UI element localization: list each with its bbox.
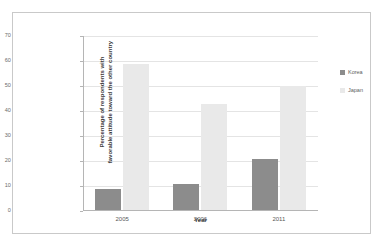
legend-item-japan[interactable]: Japan (340, 87, 384, 94)
bar-japan-2005[interactable] (123, 64, 149, 212)
legend-label: Japan (348, 88, 363, 94)
legend-item-korea[interactable]: Korea (340, 69, 384, 76)
x-axis-line (83, 210, 318, 211)
y-tick-label: 0 (0, 208, 11, 214)
y-axis-title: Percentage of respondents with favorable… (98, 17, 114, 187)
y-tick-mark (80, 61, 83, 62)
bar-japan-2006[interactable] (201, 104, 227, 212)
y-tick-label: 50 (0, 83, 11, 89)
y-tick-mark (80, 86, 83, 87)
y-tick-label: 30 (0, 133, 11, 139)
chart-legend: KoreaJapan (340, 69, 384, 105)
y-axis-line (83, 36, 84, 211)
bar-korea-2005[interactable] (95, 189, 121, 212)
x-axis-title: Year (83, 217, 318, 223)
y-tick-label: 40 (0, 108, 11, 114)
chart-figure: 010203040506070 200520062011 Percentage … (0, 0, 385, 248)
legend-label: Korea (348, 70, 363, 76)
y-tick-label: 20 (0, 158, 11, 164)
bar-japan-2011[interactable] (280, 86, 306, 211)
bar-group (161, 36, 239, 211)
y-tick-label: 10 (0, 183, 11, 189)
bar-group (83, 36, 161, 211)
bar-group (240, 36, 318, 211)
plot-area: 010203040506070 200520062011 Percentage … (83, 36, 318, 211)
y-tick-label: 70 (0, 33, 11, 39)
bar-korea-2006[interactable] (173, 184, 199, 212)
legend-swatch-japan-icon (340, 88, 345, 93)
y-tick-label: 60 (0, 58, 11, 64)
y-tick-mark (80, 111, 83, 112)
y-tick-mark (80, 136, 83, 137)
y-tick-mark (80, 36, 83, 37)
y-tick-mark (80, 186, 83, 187)
y-tick-mark (80, 161, 83, 162)
y-axis-title-line2: favorable attitude toward the other coun… (106, 17, 114, 187)
y-axis-title-line1: Percentage of respondents with (98, 17, 106, 187)
y-tick-mark (80, 211, 83, 212)
bar-korea-2011[interactable] (252, 159, 278, 212)
chart-frame: 010203040506070 200520062011 Percentage … (12, 12, 371, 234)
legend-swatch-korea-icon (340, 70, 345, 75)
